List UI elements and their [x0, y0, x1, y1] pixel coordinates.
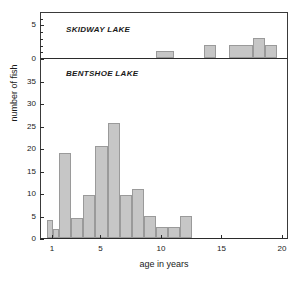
- x-tick-label: 20: [272, 244, 292, 253]
- bar: [108, 123, 120, 238]
- bar: [156, 51, 174, 58]
- bentshoe-bar-series: [41, 59, 287, 238]
- bar: [180, 216, 192, 239]
- y-tick-label: 15: [26, 167, 36, 176]
- x-tick-label: 1: [42, 244, 62, 253]
- x-tick-mark: [100, 235, 101, 239]
- y-tick-label: 5: [26, 20, 36, 29]
- y-minor-tick-mark: [40, 52, 43, 53]
- y-tick-mark: [40, 25, 44, 26]
- panel-label-bentshoe: BENTSHOE LAKE: [66, 69, 138, 78]
- y-tick-label: 20: [26, 144, 36, 153]
- x-tick-label: 5: [90, 244, 110, 253]
- y-tick-mark: [40, 82, 44, 83]
- y-minor-tick-mark: [40, 46, 43, 47]
- y-tick-mark: [40, 172, 44, 173]
- bar: [83, 195, 95, 238]
- bar: [168, 227, 180, 238]
- panel-bentshoe-lake: [40, 59, 288, 239]
- panel-label-skidway: SKIDWAY LAKE: [66, 25, 130, 34]
- y-minor-tick-mark: [40, 39, 43, 40]
- y-minor-tick-mark: [40, 19, 43, 20]
- y-tick-label: 5: [26, 212, 36, 221]
- bar: [229, 45, 253, 58]
- y-tick-label: 30: [26, 99, 36, 108]
- figure: SKIDWAY LAKE 05 BENTSHOE LAKE 0510152025…: [0, 0, 298, 283]
- y-tick-label: 25: [26, 122, 36, 131]
- y-tick-mark: [40, 194, 44, 195]
- x-axis-title: age in years: [40, 259, 288, 269]
- bar: [265, 45, 277, 58]
- y-tick-label: 0: [26, 54, 36, 63]
- y-tick-mark: [40, 127, 44, 128]
- y-tick-mark: [40, 149, 44, 150]
- y-tick-label: 0: [26, 234, 36, 243]
- bar: [156, 227, 168, 238]
- skidway-bar-series: [41, 13, 287, 58]
- panel-skidway-lake: [40, 12, 288, 59]
- y-tick-label: 35: [26, 77, 36, 86]
- bar: [59, 153, 71, 239]
- x-tick-mark: [52, 235, 53, 239]
- y-tick-mark: [40, 239, 44, 240]
- y-axis-title: number of fish: [9, 51, 19, 135]
- x-tick-label: 10: [151, 244, 171, 253]
- y-tick-mark: [40, 217, 44, 218]
- x-tick-label: 15: [211, 244, 231, 253]
- bar: [144, 216, 156, 239]
- bar: [71, 218, 83, 238]
- bar: [132, 189, 144, 239]
- y-tick-mark: [40, 104, 44, 105]
- bar: [253, 38, 265, 58]
- y-tick-label: 10: [26, 189, 36, 198]
- x-tick-mark: [282, 235, 283, 239]
- x-tick-mark: [161, 235, 162, 239]
- bar: [95, 146, 107, 238]
- x-tick-mark: [221, 235, 222, 239]
- bar: [120, 195, 132, 238]
- y-minor-tick-mark: [40, 32, 43, 33]
- bar: [204, 45, 216, 58]
